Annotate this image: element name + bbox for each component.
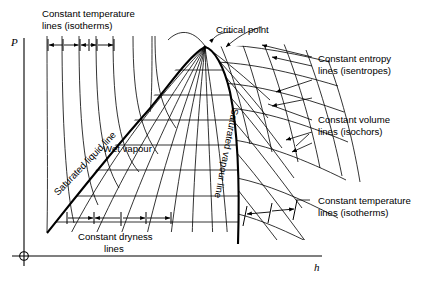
- isotherm-label-leader: [150, 36, 152, 112]
- label-wet-vapour-region: Wet vapour: [103, 143, 153, 154]
- label-temperature-right-line2: lines (isotherms): [318, 207, 388, 218]
- critical-point-dot: [204, 46, 207, 49]
- label-volume-line1: Constant volume: [318, 114, 390, 125]
- ph-diagram-figure: P h: [0, 0, 443, 286]
- enthalpy-axis-label: h: [314, 261, 320, 273]
- ph-diagram-canvas: P h: [0, 0, 443, 286]
- entropy-leader-arrows: [262, 45, 312, 106]
- superheat-isotherm-dimension-arrows: [243, 200, 297, 226]
- label-temperature-right-line1: Constant temperature: [318, 195, 411, 206]
- label-entropy-line1: Constant entropy: [318, 53, 391, 64]
- dryness-dimension-arrows: [67, 212, 171, 226]
- volume-leader-arrows: [268, 104, 312, 152]
- label-isotherms-topleft-line2: lines (isotherms): [42, 20, 112, 31]
- label-entropy-line2: lines (isentropes): [318, 65, 391, 76]
- label-isotherms-topleft-line1: Constant temperature: [42, 8, 135, 19]
- label-volume-line2: lines (isochors): [318, 126, 383, 137]
- label-dryness-line1: Constant dryness: [78, 231, 153, 242]
- label-critical-point: Critical point: [216, 24, 269, 35]
- pressure-axis-label: P: [10, 36, 18, 48]
- liquid-isotherm-dimension-arrows: [48, 39, 114, 51]
- label-dryness-line2: lines: [104, 243, 124, 254]
